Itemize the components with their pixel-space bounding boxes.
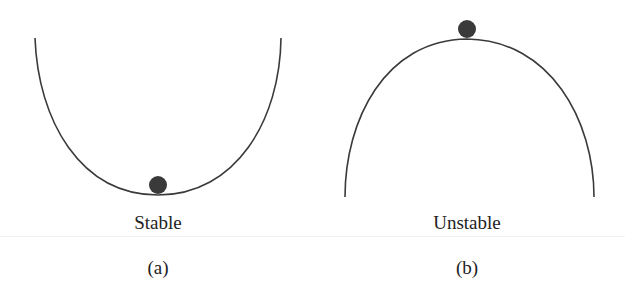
hill-curve <box>345 39 594 197</box>
stability-diagram <box>0 0 625 301</box>
caption-b: (b) <box>367 257 567 279</box>
panel-b-graphic <box>345 20 594 197</box>
panel-a-graphic <box>35 38 281 195</box>
ball-unstable <box>458 20 476 38</box>
ball-stable <box>149 176 167 194</box>
caption-a: (a) <box>58 257 258 279</box>
valley-curve <box>35 38 281 195</box>
label-stable: Stable <box>58 212 258 234</box>
label-unstable: Unstable <box>367 212 567 234</box>
